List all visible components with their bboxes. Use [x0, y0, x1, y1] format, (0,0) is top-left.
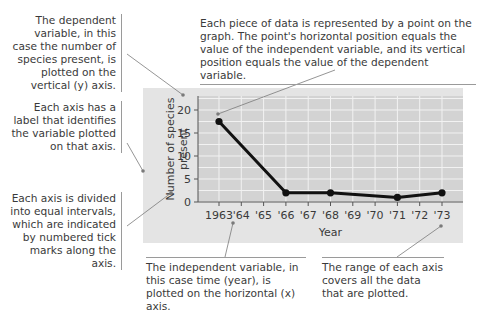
x-axis-title: Year: [318, 226, 343, 239]
data-point: [394, 194, 401, 201]
data-point: [282, 189, 289, 196]
annotation-data-point: Each piece of data is represented by a p…: [200, 17, 476, 85]
x-tick-label: 1963: [205, 209, 233, 222]
x-tick-label: '73: [433, 209, 450, 222]
x-tick-label: '70: [367, 209, 384, 222]
annotation-axis-label: Each axis has a label that identifies th…: [10, 101, 122, 153]
x-tick-label: '65: [255, 209, 272, 222]
x-tick-label: '69: [344, 209, 361, 222]
x-tick-label: '72: [411, 209, 428, 222]
x-tick-label: '66: [277, 209, 294, 222]
x-tick-label: '68: [322, 209, 339, 222]
annotation-intervals: Each axis is divided into equal interval…: [4, 192, 122, 270]
annotation-range: The range of each axis covers all the da…: [322, 257, 444, 300]
annotation-independent-variable: The independent variable, in this case t…: [146, 257, 306, 313]
data-point: [215, 118, 222, 125]
x-tick-label: '71: [389, 209, 406, 222]
x-tick-label: '64: [233, 209, 250, 222]
y-tick-label: 5: [184, 173, 191, 186]
y-tick-label: 0: [184, 196, 191, 209]
x-tick-label: '67: [300, 209, 317, 222]
y-tick-label: 20: [177, 104, 191, 117]
data-point: [438, 189, 445, 196]
annotation-dependent-variable: The dependent variable, in this case the…: [10, 14, 122, 92]
data-point: [327, 189, 334, 196]
